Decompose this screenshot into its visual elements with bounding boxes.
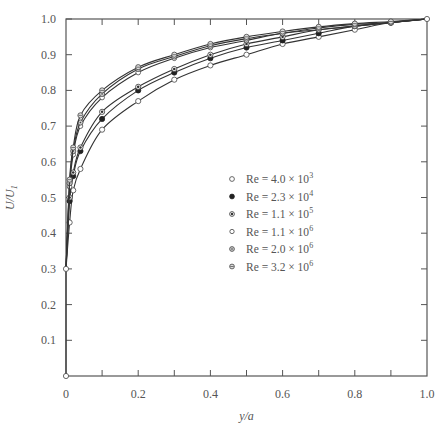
legend-label: Re = 4.0 × 103 — [246, 171, 313, 185]
marker-open — [244, 52, 249, 57]
legend-label: Re = 2.0 × 106 — [246, 241, 313, 255]
marker-open — [230, 177, 235, 182]
y-tick-label: 0.4 — [41, 226, 56, 240]
y-tick-label: 0.3 — [41, 262, 56, 276]
legend-label: Re = 3.2 × 106 — [246, 259, 313, 273]
legend-entry: Re = 4.0 × 103 — [230, 171, 314, 185]
marker-striped — [100, 88, 105, 93]
marker-open-small — [230, 229, 234, 233]
marker-half — [172, 66, 177, 71]
y-axis-title: U/U1 — [3, 185, 19, 210]
marker-half — [100, 109, 105, 114]
marker-striped — [78, 113, 83, 118]
marker-open — [78, 166, 83, 171]
x-tick-label: 1.0 — [420, 387, 435, 401]
marker-open — [136, 99, 141, 104]
marker-striped — [136, 65, 141, 70]
marker-open — [208, 63, 213, 68]
marker-half — [208, 52, 213, 57]
x-tick-label: 0 — [63, 387, 69, 401]
legend-label: Re = 2.3 × 104 — [246, 189, 313, 203]
legend-entry: Re = 2.3 × 104 — [230, 189, 314, 203]
marker-open — [100, 127, 105, 132]
marker-striped — [244, 34, 249, 39]
marker-open — [172, 77, 177, 82]
y-tick-label: 0.1 — [41, 333, 56, 347]
y-tick-label: 1.0 — [41, 12, 56, 26]
legend: Re = 4.0 × 103Re = 2.3 × 104Re = 1.1 × 1… — [230, 171, 314, 273]
marker-striped — [230, 264, 235, 269]
chart: 00.20.40.60.81.00.10.20.30.40.50.60.70.8… — [0, 0, 448, 425]
x-tick-label: 0.4 — [203, 387, 218, 401]
legend-label: Re = 1.1 × 106 — [246, 224, 313, 238]
marker-half — [78, 145, 83, 150]
marker-striped — [67, 177, 72, 182]
marker-open — [424, 16, 429, 21]
y-tick-label: 0.2 — [41, 298, 56, 312]
legend-label: Re = 1.1 × 105 — [246, 206, 313, 220]
marker-striped — [280, 29, 285, 34]
x-tick-label: 0.8 — [347, 387, 362, 401]
y-tick-label: 0.7 — [41, 119, 56, 133]
y-tick-label: 0.9 — [41, 48, 56, 62]
marker-open — [63, 266, 68, 271]
legend-entry: Re = 2.0 × 106 — [230, 241, 314, 255]
marker-striped — [71, 145, 76, 150]
marker-filled — [100, 116, 105, 121]
marker-striped — [352, 21, 357, 26]
marker-dotted — [230, 247, 235, 252]
marker-striped — [208, 41, 213, 46]
marker-half — [230, 212, 235, 217]
x-tick-label: 0.2 — [131, 387, 146, 401]
marker-half — [136, 84, 141, 89]
marker-striped — [172, 52, 177, 57]
legend-entry: Re = 3.2 × 106 — [230, 259, 314, 273]
marker-striped — [316, 24, 321, 29]
marker-striped — [388, 19, 393, 24]
legend-entry: Re = 1.1 × 106 — [230, 224, 313, 238]
marker-open — [63, 373, 68, 378]
y-tick-label: 0.5 — [41, 191, 56, 205]
x-axis-title: y/a — [238, 409, 254, 423]
y-tick-label: 0.8 — [41, 83, 56, 97]
legend-entry: Re = 1.1 × 105 — [230, 206, 314, 220]
marker-filled — [230, 194, 235, 199]
y-tick-label: 0.6 — [41, 155, 56, 169]
x-tick-label: 0.6 — [275, 387, 290, 401]
